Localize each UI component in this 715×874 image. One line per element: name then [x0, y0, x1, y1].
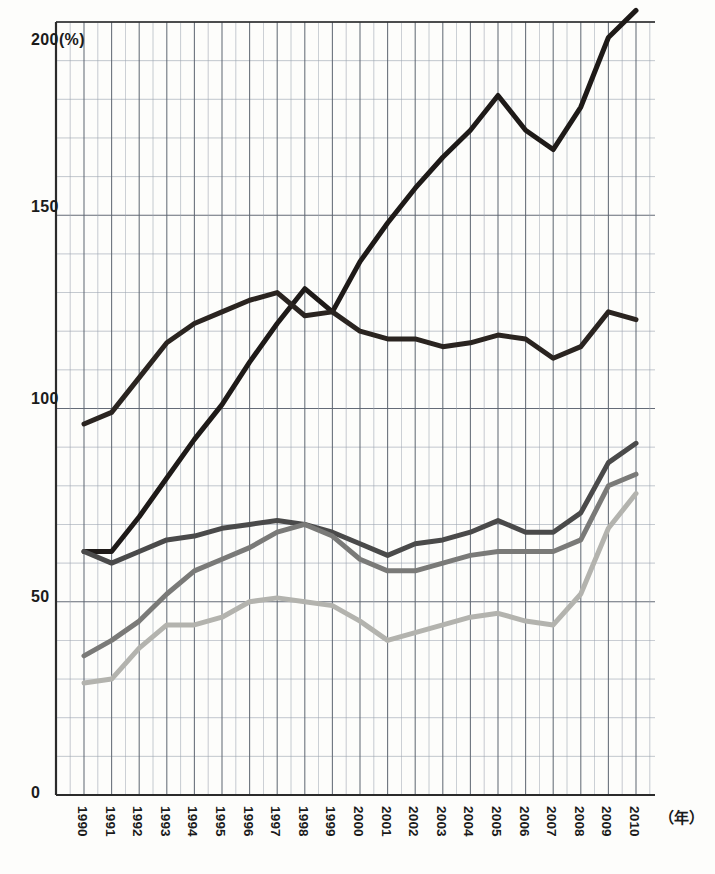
x-axis-label-1993: 1993 [158, 806, 173, 837]
x-axis-label-2009: 2009 [599, 806, 614, 837]
chart-container: 200(%) 150 100 50 0 （年） 1990199119921993… [0, 0, 715, 874]
x-axis-label-1996: 1996 [241, 806, 256, 837]
chart-background [0, 0, 715, 874]
y-axis-label-200: 200(%) [31, 31, 85, 49]
x-axis-label-2007: 2007 [544, 806, 559, 837]
y-axis-label-0: 0 [31, 784, 40, 802]
line-chart-plot [0, 0, 715, 874]
x-axis-label-2003: 2003 [434, 806, 449, 837]
x-axis-label-1997: 1997 [268, 806, 283, 837]
x-axis-label-1994: 1994 [185, 806, 200, 837]
x-axis-label-1999: 1999 [323, 806, 338, 837]
x-axis-label-1991: 1991 [103, 806, 118, 837]
x-axis-label-1990: 1990 [75, 806, 90, 837]
y-axis-label-100: 100 [31, 390, 59, 408]
x-axis-label-2010: 2010 [627, 806, 642, 837]
x-axis-label-2000: 2000 [351, 806, 366, 837]
y-axis-label-150: 150 [31, 198, 59, 216]
x-axis-label-1998: 1998 [296, 806, 311, 837]
x-axis-label-2006: 2006 [517, 806, 532, 837]
x-axis-label-1995: 1995 [213, 806, 228, 837]
x-axis-label-2002: 2002 [406, 806, 421, 837]
x-axis-label-2005: 2005 [489, 806, 504, 837]
x-axis-label-2001: 2001 [379, 806, 394, 837]
x-axis-label-1992: 1992 [130, 806, 145, 837]
y-axis-label-50: 50 [31, 588, 50, 606]
x-axis-label-2008: 2008 [572, 806, 587, 837]
x-axis-unit-label: （年） [659, 806, 704, 827]
x-axis-label-2004: 2004 [461, 806, 476, 837]
grid-lines [56, 22, 655, 795]
